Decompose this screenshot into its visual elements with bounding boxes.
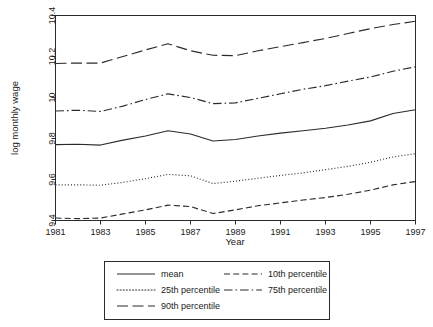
x-tick-label: 1989 [225, 227, 245, 237]
x-axis-title: Year [225, 236, 244, 247]
chart-figure: 9.49.69.81010.210.4 19811983198519871989… [0, 0, 433, 327]
x-tick-label: 1991 [270, 227, 290, 237]
x-tick-label: 1981 [45, 227, 65, 237]
x-tick-label: 1995 [360, 227, 380, 237]
x-tick-label: 1983 [90, 227, 110, 237]
line-chart: 9.49.69.81010.210.4 19811983198519871989… [0, 0, 433, 327]
x-tick-label: 1987 [180, 227, 200, 237]
y-tick-label: 9.6 [47, 173, 57, 186]
x-tick-label: 1985 [135, 227, 155, 237]
y-tick-label: 10.4 [47, 7, 57, 25]
legend-label: 25th percentile [161, 285, 220, 295]
x-tick-label: 1993 [315, 227, 335, 237]
legend-label: 10th percentile [268, 269, 327, 279]
legend-label: 90th percentile [161, 301, 220, 311]
legend-label: 75th percentile [268, 285, 327, 295]
legend-label: mean [161, 269, 184, 279]
y-tick-label: 9.8 [47, 132, 57, 145]
chart-legend: mean10th percentile25th percentile75th p… [105, 262, 330, 320]
y-axis-title: log monthly wage [9, 81, 20, 155]
y-tick-label: 10 [47, 92, 57, 102]
x-tick-label: 1997 [405, 227, 425, 237]
x-axis-tick-labels: 198119831985198719891991199319951997 [45, 227, 425, 237]
y-tick-label: 10.2 [47, 48, 57, 66]
